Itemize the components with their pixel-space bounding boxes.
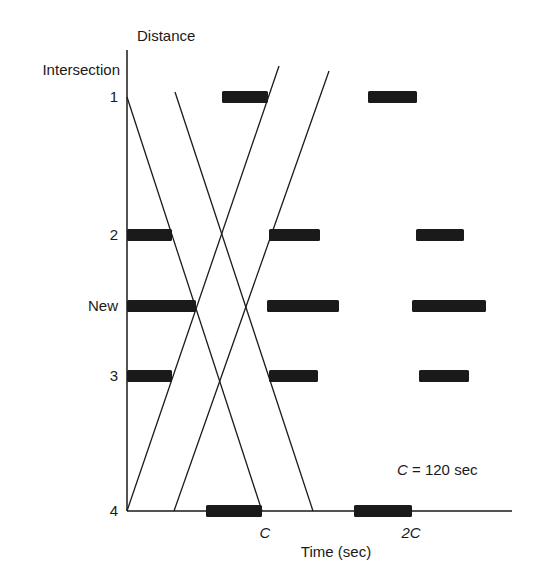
intersection-label-4: 4 (110, 502, 118, 519)
x-tick-2c: 2C (400, 524, 420, 541)
red-phase-bar-1-2 (368, 91, 417, 103)
red-phase-bars (127, 91, 486, 517)
progression-bands (127, 66, 329, 511)
x-axis-title: Time (sec) (301, 543, 371, 560)
red-phase-bar-1-1 (222, 91, 268, 103)
y-axis-title: Distance (137, 27, 195, 44)
intersection-label-3: 3 (110, 367, 118, 384)
red-phase-bar-3-2 (269, 370, 318, 382)
red-phase-bar-2-1 (127, 229, 172, 241)
y-axis-subtitle: Intersection (42, 61, 120, 78)
red-phase-bar-2-3 (416, 229, 464, 241)
cycle-value: = 120 sec (408, 461, 478, 478)
red-phase-bar-4-2 (354, 505, 412, 517)
intersection-label-new: New (88, 297, 118, 314)
red-phase-bar-3-3 (419, 370, 469, 382)
cycle-var: C (397, 461, 408, 478)
x-tick-c: C (260, 524, 271, 541)
red-phase-bar-new-1 (127, 300, 196, 312)
northbound-band-edge-1 (127, 66, 279, 511)
intersection-label-2: 2 (110, 226, 118, 243)
time-space-diagram: Distance Intersection Time (sec) C 2C C … (0, 0, 535, 579)
red-phase-bar-3-1 (127, 370, 172, 382)
red-phase-bar-2-2 (269, 229, 320, 241)
red-phase-bar-4-1 (206, 505, 262, 517)
cycle-length-annotation: C = 120 sec (397, 461, 478, 478)
red-phase-bar-new-3 (412, 300, 486, 312)
intersection-label-1: 1 (110, 88, 118, 105)
red-phase-bar-new-2 (267, 300, 339, 312)
northbound-band-edge-2 (174, 71, 329, 511)
